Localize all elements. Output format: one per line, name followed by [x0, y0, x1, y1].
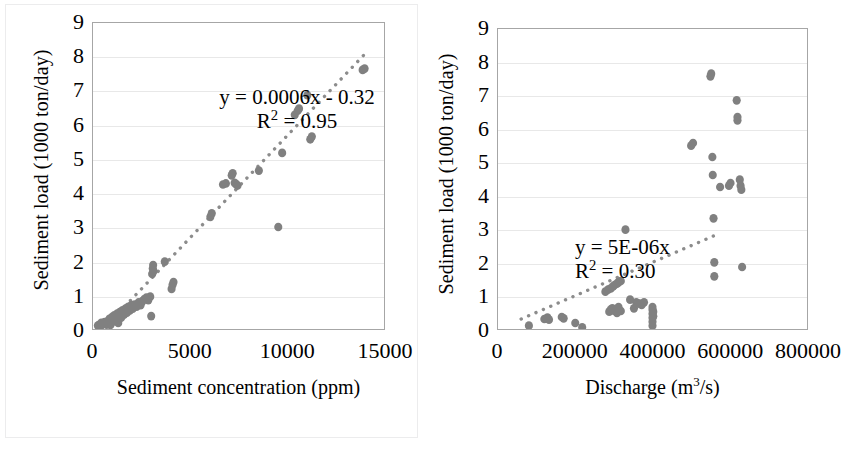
- data-point: [278, 149, 286, 158]
- y-tick-label: 3: [463, 218, 489, 240]
- data-point: [149, 267, 157, 276]
- equation-text-left: y = 0.0006x - 0.32: [219, 85, 374, 109]
- data-point: [161, 257, 169, 266]
- y-axis-label-wrap-left: Sediment load (1000 ton/day): [24, 10, 58, 330]
- x-axis-label-left: Sediment concentration (ppm): [92, 376, 385, 399]
- equation-text-right: y = 5E-06x: [575, 235, 670, 259]
- x-tick-label: 200000: [542, 340, 608, 362]
- y-tick-label: 9: [463, 17, 489, 39]
- x-tick-label: 0: [87, 340, 98, 362]
- x-axis-label-right-prefix: Discharge (m: [585, 376, 693, 398]
- y-tick-label: 4: [463, 185, 489, 207]
- data-point: [707, 69, 715, 78]
- data-point: [689, 139, 697, 148]
- data-point: [525, 321, 533, 329]
- data-point: [709, 214, 717, 223]
- y-tick-label: 3: [58, 216, 84, 238]
- y-tick-label: 9: [58, 11, 84, 33]
- data-point: [709, 171, 717, 180]
- x-tick-label: 600000: [697, 340, 763, 362]
- data-point: [733, 96, 741, 105]
- data-point: [361, 64, 369, 73]
- figure-page: Sediment load (1000 ton/day) 0123456789 …: [0, 0, 858, 450]
- data-point: [640, 298, 648, 307]
- trendline-equation-right: y = 5E-06x R2 = 0.30: [575, 235, 745, 284]
- y-axis-label-wrap-right: Sediment load (1000 ton/day): [429, 14, 463, 334]
- data-point: [617, 307, 625, 316]
- data-point: [222, 179, 230, 188]
- y-tick-label: 8: [463, 51, 489, 73]
- y-tick-label: 5: [58, 148, 84, 170]
- data-point: [233, 181, 241, 190]
- data-point: [621, 225, 629, 234]
- data-point: [169, 278, 177, 287]
- y-tick-label: 6: [463, 118, 489, 140]
- data-point: [560, 314, 568, 323]
- data-point: [733, 116, 741, 125]
- x-tick-label: 0: [492, 340, 503, 362]
- data-point: [716, 183, 724, 192]
- data-point: [737, 185, 745, 194]
- x-tick-label: 400000: [620, 340, 686, 362]
- y-axis-label-right: Sediment load (1000 ton/day): [435, 53, 458, 294]
- data-point: [630, 304, 638, 313]
- r-squared-left: R2 = 0.95: [197, 109, 397, 133]
- x-tick-label: 5000: [168, 340, 212, 362]
- scatter-canvas-left: [93, 23, 384, 329]
- y-tick-label: 2: [463, 252, 489, 274]
- y-tick-label: 1: [463, 285, 489, 307]
- data-point: [274, 223, 282, 232]
- y-tick-label: 7: [58, 79, 84, 101]
- r-squared-right: R2 = 0.30: [575, 259, 745, 283]
- y-axis-label-left: Sediment load (1000 ton/day): [30, 49, 53, 290]
- chart-panel-sediment-concentration: Sediment load (1000 ton/day) 0123456789 …: [0, 0, 429, 450]
- plot-area-right: [497, 28, 808, 330]
- y-tick-label: 8: [58, 45, 84, 67]
- data-point: [208, 209, 216, 218]
- trendline-equation-left: y = 0.0006x - 0.32 R2 = 0.95: [197, 85, 397, 134]
- data-point: [649, 312, 657, 321]
- data-point: [545, 315, 553, 324]
- chart-panel-discharge: Sediment load (1000 ton/day) 0123456789 …: [429, 0, 858, 450]
- x-axis-label-right-suffix: /s): [700, 376, 720, 398]
- x-tick-label: 800000: [775, 340, 841, 362]
- plot-area-left: [92, 22, 385, 330]
- x-tick-label: 15000: [358, 340, 413, 362]
- y-tick-label: 4: [58, 182, 84, 204]
- data-point: [571, 319, 579, 328]
- data-point: [708, 153, 716, 162]
- data-point: [229, 169, 237, 178]
- data-point: [255, 166, 263, 175]
- data-point: [726, 179, 734, 188]
- y-tick-label: 0: [463, 319, 489, 341]
- y-tick-label: 1: [58, 285, 84, 307]
- scatter-canvas-right: [498, 29, 807, 329]
- data-point: [147, 312, 155, 321]
- y-tick-label: 6: [58, 114, 84, 136]
- x-tick-label: 10000: [260, 340, 315, 362]
- y-tick-label: 5: [463, 151, 489, 173]
- y-tick-label: 0: [58, 319, 84, 341]
- data-point: [146, 292, 154, 301]
- x-axis-label-right: Discharge (m3/s): [497, 376, 808, 399]
- y-tick-label: 2: [58, 251, 84, 273]
- y-tick-label: 7: [463, 84, 489, 106]
- data-point: [578, 323, 586, 329]
